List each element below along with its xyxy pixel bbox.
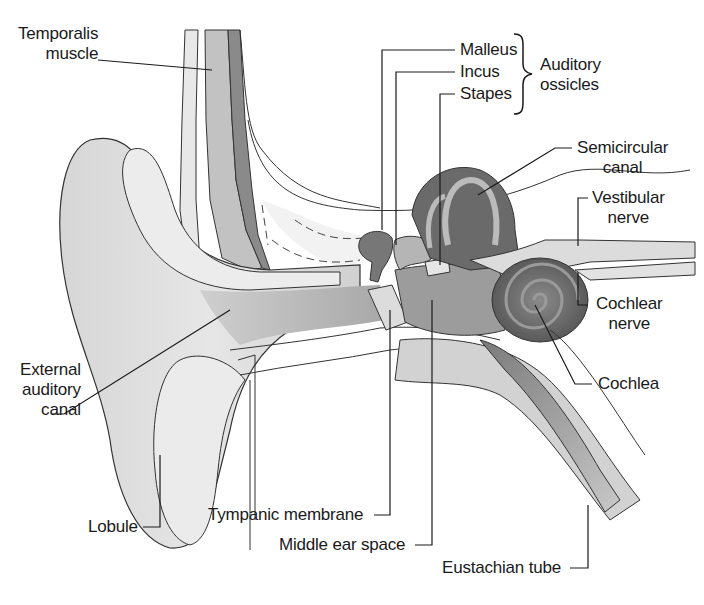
label-eustachian-tube: Eustachian tube <box>442 558 561 578</box>
label-lobule: Lobule <box>88 517 138 537</box>
label-tympanic-membrane: Tympanic membrane <box>208 505 363 525</box>
malleus <box>359 231 393 282</box>
label-auditory-ossicles: Auditory ossicles <box>540 55 601 95</box>
label-cochlear-nerve: Cochlear nerve <box>596 294 662 334</box>
label-semicircular-canal: Semicircular canal <box>577 138 668 178</box>
label-incus: Incus <box>460 62 500 82</box>
label-vestibular-nerve: Vestibular nerve <box>592 188 665 228</box>
middle-ear-cavity <box>395 264 505 335</box>
label-cochlea: Cochlea <box>598 374 659 394</box>
label-external-auditory-canal: External auditory canal <box>20 360 81 420</box>
label-stapes: Stapes <box>460 84 512 104</box>
label-malleus: Malleus <box>460 40 517 60</box>
label-temporalis-muscle: Temporalis muscle <box>18 24 98 64</box>
label-middle-ear-space: Middle ear space <box>279 535 405 555</box>
cochlea <box>492 258 588 342</box>
